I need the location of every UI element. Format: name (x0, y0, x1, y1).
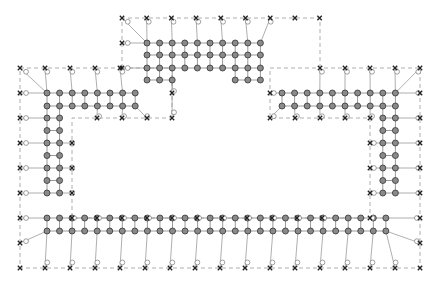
mesh-diagram (0, 0, 443, 286)
